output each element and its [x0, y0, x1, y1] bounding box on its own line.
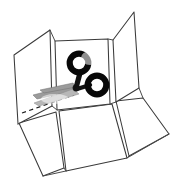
panel-bottom-center: [59, 104, 127, 171]
panel-left-upright-flap: [14, 30, 52, 124]
panel-right-upright-flap: [113, 12, 139, 102]
highlight-glow: [81, 51, 99, 65]
figure-canvas: [0, 0, 181, 183]
box-scissors-illustration: [0, 0, 181, 183]
blade-glow: [41, 94, 69, 104]
panel-bottom-left-flap: [19, 112, 64, 176]
